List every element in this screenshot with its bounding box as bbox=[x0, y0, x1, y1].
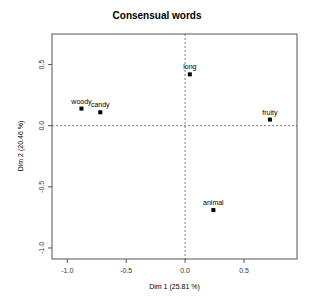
data-point-woody bbox=[79, 107, 83, 111]
x-tick-label: 0.5 bbox=[239, 267, 249, 274]
y-axis-label: Dim 2 (20.46 %) bbox=[17, 121, 24, 172]
x-tick-label: -0.5 bbox=[120, 267, 132, 274]
point-label-woody: woody bbox=[70, 98, 92, 106]
data-point-candy bbox=[98, 110, 102, 114]
x-tick-label: -1.0 bbox=[61, 267, 73, 274]
y-tick-label: 0.0 bbox=[38, 121, 45, 131]
data-point-animal bbox=[211, 208, 215, 212]
y-tick-label: -0.5 bbox=[38, 181, 45, 193]
y-tick-label: 0.5 bbox=[38, 60, 45, 70]
x-tick-label: 0.0 bbox=[180, 267, 190, 274]
plot-frame bbox=[52, 34, 297, 259]
scatter-plot: -1.0-0.50.00.5-1.0-0.50.00.5woodycandylo… bbox=[0, 0, 314, 307]
data-point-long bbox=[188, 72, 192, 76]
point-label-fruity: fruity bbox=[262, 109, 278, 117]
point-label-candy: candy bbox=[91, 101, 110, 109]
y-tick-label: -1.0 bbox=[38, 242, 45, 254]
data-point-fruity bbox=[268, 118, 272, 122]
x-axis-label: Dim 1 (25.81 %) bbox=[52, 283, 297, 290]
point-label-long: long bbox=[183, 63, 196, 71]
point-label-animal: animal bbox=[203, 199, 224, 206]
